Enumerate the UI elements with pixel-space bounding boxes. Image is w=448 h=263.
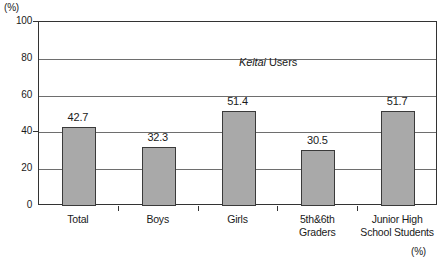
bar (142, 147, 176, 206)
x-axis-category-label-line: Girls (193, 213, 283, 226)
y-axis-unit-label: (%) (4, 2, 19, 14)
bar-chart: (%) 020406080100 Keitai Users 42.732.351… (0, 0, 448, 263)
bar-value-label: 51.4 (208, 95, 268, 107)
gridline (39, 59, 436, 60)
y-axis-tick-label: 20 (0, 163, 32, 173)
y-axis-tick-label: 80 (0, 53, 32, 63)
bar-value-label: 51.7 (367, 95, 427, 107)
bar-value-label: 42.7 (48, 111, 108, 123)
x-axis-category-label: Junior HighSchool Students (352, 213, 442, 239)
x-axis-category-label: 5th&6thGraders (272, 213, 362, 239)
bar (62, 127, 96, 206)
y-axis-tick-label: 40 (0, 126, 32, 136)
chart-title: Keitai Users (239, 56, 297, 69)
bar (301, 150, 335, 206)
x-axis-category-label-line: Graders (272, 226, 362, 239)
y-axis-tick-label: 0 (0, 200, 32, 210)
x-axis-category-label-line: School Students (352, 226, 442, 239)
x-axis-category-label-line: Total (33, 213, 123, 226)
x-axis-tick-mark (277, 206, 278, 211)
x-axis-category-label: Boys (113, 213, 203, 226)
x-axis-category-label-line: 5th&6th (272, 213, 362, 226)
chart-title-rest: Users (266, 56, 297, 68)
x-axis-unit-label: (%) (411, 246, 426, 258)
bar-value-label: 30.5 (287, 134, 347, 146)
x-axis-category-label: Total (33, 213, 123, 226)
bar-value-label: 32.3 (128, 131, 188, 143)
x-axis-tick-mark (198, 206, 199, 211)
x-axis-category-label-line: Boys (113, 213, 203, 226)
bar (381, 111, 415, 206)
y-axis-tick-label: 60 (0, 90, 32, 100)
x-axis-tick-mark (357, 206, 358, 211)
x-axis-category-label-line: Junior High (352, 213, 442, 226)
bar (222, 111, 256, 206)
x-axis-category-label: Girls (193, 213, 283, 226)
chart-title-keyword: Keitai (239, 56, 266, 68)
y-axis-tick-label: 100 (0, 16, 32, 26)
x-axis-tick-mark (118, 206, 119, 211)
